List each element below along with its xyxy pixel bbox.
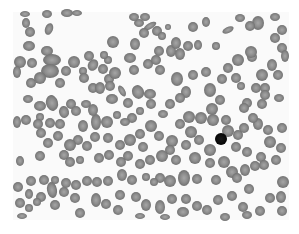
red-blood-cell (106, 94, 118, 104)
red-blood-cell (240, 164, 250, 176)
red-blood-cell (250, 161, 260, 171)
red-blood-cell (22, 18, 30, 28)
red-blood-cell (142, 173, 150, 181)
red-blood-cell (43, 138, 53, 148)
red-blood-cell (167, 194, 177, 204)
red-blood-cell (188, 22, 198, 32)
red-blood-cell (53, 131, 63, 141)
red-blood-cell (23, 41, 35, 51)
red-blood-cell (39, 175, 49, 185)
red-blood-cell (135, 213, 145, 219)
red-blood-cell (227, 191, 237, 201)
red-blood-cell (129, 65, 139, 75)
red-blood-cell (76, 156, 84, 164)
red-blood-cell (155, 65, 165, 75)
red-blood-cell (42, 10, 52, 18)
red-blood-cell (194, 135, 204, 145)
red-blood-cell (141, 199, 151, 211)
blood-smear-image (0, 0, 299, 234)
red-blood-cell (155, 200, 165, 214)
red-blood-cell (95, 82, 105, 94)
red-blood-cell (71, 180, 81, 190)
red-blood-cell (113, 111, 121, 119)
red-blood-cell (17, 213, 27, 219)
red-blood-cell (70, 193, 80, 203)
red-blood-cell (158, 110, 168, 118)
red-blood-cell (35, 151, 45, 161)
red-blood-cell (115, 190, 125, 200)
red-blood-cell (235, 14, 245, 22)
red-blood-cell (239, 103, 249, 113)
red-blood-cell (239, 123, 249, 133)
red-blood-cell (171, 37, 181, 49)
red-blood-cell (248, 113, 258, 123)
red-blood-cell (160, 214, 170, 220)
red-blood-cell (103, 176, 113, 186)
red-blood-cell (256, 69, 268, 81)
red-blood-cell (251, 83, 261, 93)
red-blood-cell (171, 72, 183, 86)
red-blood-cell (276, 143, 286, 153)
red-blood-cell (65, 157, 75, 167)
red-blood-cell (175, 93, 185, 103)
red-blood-cell (154, 131, 164, 141)
red-blood-cell (13, 66, 21, 78)
red-blood-cell (82, 176, 92, 186)
red-blood-cell (124, 134, 136, 146)
red-blood-cell (72, 10, 82, 16)
red-blood-cell (213, 195, 223, 205)
red-blood-cell (265, 193, 275, 203)
red-blood-cell (181, 194, 191, 204)
red-blood-cell (237, 82, 245, 90)
red-blood-cell (238, 202, 248, 212)
red-blood-cell (33, 119, 43, 129)
red-blood-cell (267, 59, 277, 71)
red-blood-cell (223, 63, 233, 73)
red-blood-cell (131, 192, 141, 202)
red-blood-cell (232, 173, 242, 183)
red-blood-cell (88, 104, 98, 116)
red-blood-cell (146, 99, 156, 109)
red-blood-cell (281, 50, 289, 62)
red-blood-cell (273, 70, 283, 80)
red-blood-cell (135, 159, 145, 169)
red-blood-cell (183, 111, 195, 123)
red-blood-cell (78, 120, 88, 132)
red-blood-cell (220, 213, 230, 221)
red-blood-cell (150, 178, 158, 186)
red-blood-cell (71, 106, 81, 116)
red-blood-cell (117, 169, 127, 181)
red-blood-cell (13, 116, 21, 128)
red-blood-cell (123, 151, 133, 161)
red-blood-cell (33, 198, 41, 206)
red-blood-cell (244, 184, 254, 194)
red-blood-cell (202, 205, 212, 215)
red-blood-cell (107, 36, 119, 48)
red-blood-cell (25, 189, 33, 199)
red-blood-cell (50, 200, 60, 210)
red-blood-cell (206, 103, 218, 115)
red-blood-cell (20, 11, 30, 17)
red-blood-cell (103, 133, 113, 143)
red-blood-cell (26, 176, 36, 186)
red-blood-cell (192, 174, 202, 184)
red-blood-cell (165, 99, 175, 109)
red-blood-cell (188, 70, 198, 80)
red-blood-cell (16, 156, 24, 166)
red-blood-cell (263, 125, 273, 135)
red-blood-cell (231, 142, 241, 152)
red-blood-cell (215, 95, 225, 105)
red-blood-cell (15, 198, 25, 208)
red-blood-cell (145, 155, 155, 165)
red-blood-cell (59, 187, 69, 197)
red-blood-cell (61, 178, 71, 188)
red-blood-cell (177, 207, 189, 217)
red-blood-cell (115, 140, 125, 150)
red-blood-cell (139, 28, 149, 38)
red-blood-cell (135, 129, 145, 139)
red-blood-cell (82, 141, 92, 151)
red-blood-cell (136, 107, 144, 115)
red-blood-cell (192, 201, 202, 211)
red-blood-cell (94, 153, 104, 163)
red-blood-cell (101, 116, 113, 128)
